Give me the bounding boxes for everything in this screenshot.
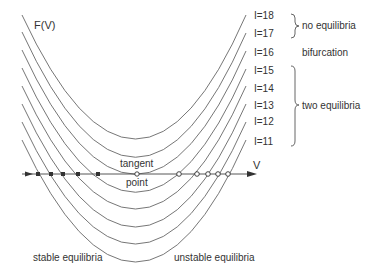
unstable-point-marker	[216, 172, 221, 177]
parabola-curves	[22, 15, 246, 262]
unstable-point-marker	[195, 172, 200, 177]
curve-label-i15: I=15	[254, 66, 274, 76]
brace-no-equilibria	[291, 14, 299, 38]
curve-i17	[22, 32, 246, 157]
unstable-point-marker	[206, 172, 211, 177]
x-axis-label: V	[253, 160, 260, 171]
group-label-two-equilibria: two equilibria	[302, 101, 360, 111]
curve-label-i18: I=18	[254, 11, 274, 21]
curve-i14	[22, 86, 246, 209]
stable-equilibria-label: stable equilibria	[33, 253, 103, 263]
unstable-equilibria-label: unstable equilibria	[174, 253, 255, 263]
group-label-no-equilibria: no equilibria	[302, 21, 356, 31]
stable-point-marker	[61, 172, 65, 176]
brace-two-equilibria	[291, 66, 299, 146]
unstable-point-marker	[177, 172, 182, 177]
tangent-point-marker	[135, 172, 139, 176]
curve-label-i17: I=17	[254, 29, 274, 39]
tangent-label: tangent	[120, 159, 153, 169]
curve-label-i12: I=12	[254, 117, 274, 127]
stable-point-marker	[76, 172, 80, 176]
curve-label-i13: I=13	[254, 101, 274, 111]
stable-point-marker	[36, 172, 40, 176]
v-axis-arrow-right-icon	[247, 171, 257, 177]
curve-label-i16: I=16	[254, 48, 274, 58]
diagram-canvas	[0, 0, 376, 278]
unstable-point-marker	[226, 172, 231, 177]
stable-point-marker	[49, 172, 53, 176]
curve-label-i11: I=11	[254, 137, 273, 147]
curve-i16	[22, 50, 246, 174]
curve-label-i14: I=14	[254, 84, 274, 94]
group-label-bifurcation: bifurcation	[302, 48, 348, 58]
v-axis-arrow-left-icon	[25, 172, 33, 177]
curve-i18	[22, 15, 246, 139]
stable-point-marker	[96, 172, 100, 176]
y-axis-label: F(V)	[34, 20, 55, 31]
point-label: point	[126, 178, 148, 188]
